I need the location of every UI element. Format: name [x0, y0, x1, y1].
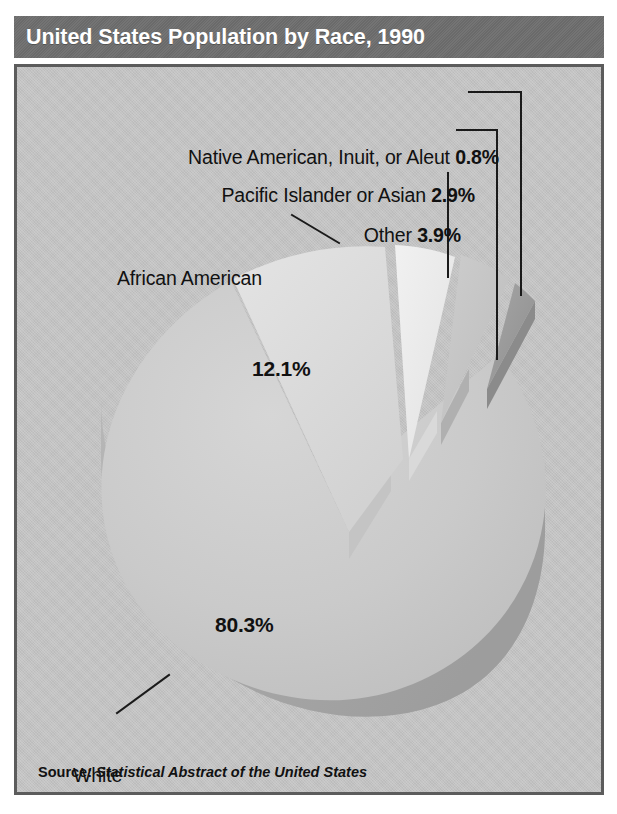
- source-value: Statistical Abstract of the United State…: [96, 764, 367, 780]
- label-pacific-islander-asian-value: 2.9%: [431, 184, 475, 206]
- label-other: Other 3.9%: [364, 224, 461, 247]
- label-african-american: African American: [117, 267, 262, 290]
- label-other-value: 3.9%: [417, 224, 461, 246]
- value-white: 80.3%: [215, 613, 274, 637]
- chart-figure: United States Population by Race, 1990: [0, 0, 617, 814]
- chart-panel: Native American, Inuit, or Aleut 0.8% Pa…: [14, 64, 604, 795]
- label-african-american-text: African American: [117, 267, 262, 289]
- label-pacific-islander-asian: Pacific Islander or Asian 2.9%: [222, 184, 476, 207]
- label-native-american: Native American, Inuit, or Aleut 0.8%: [188, 146, 499, 169]
- source-note: Source: Statistical Abstract of the Unit…: [38, 764, 367, 780]
- label-pacific-islander-asian-text: Pacific Islander or Asian: [222, 184, 426, 206]
- leader-line-white: [117, 675, 169, 713]
- label-other-text: Other: [364, 224, 412, 246]
- source-label: Source:: [38, 764, 92, 780]
- pie-chart-graphic: [17, 67, 601, 792]
- chart-title-bar: United States Population by Race, 1990: [14, 16, 604, 58]
- value-african-american: 12.1%: [252, 357, 311, 381]
- page-title: United States Population by Race, 1990: [26, 25, 425, 50]
- label-native-american-value: 0.8%: [455, 146, 499, 168]
- label-native-american-text: Native American, Inuit, or Aleut: [188, 146, 450, 168]
